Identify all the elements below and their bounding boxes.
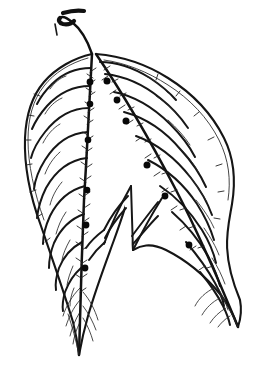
gland-dot bbox=[85, 137, 92, 144]
gland-dot bbox=[87, 79, 94, 86]
gland-dot bbox=[82, 265, 89, 272]
gland-dot bbox=[104, 78, 111, 85]
gland-dot bbox=[144, 162, 151, 169]
gland-dot bbox=[114, 97, 121, 104]
petiole-top-flick bbox=[63, 11, 84, 13]
gland-dot bbox=[83, 222, 90, 229]
gland-dot bbox=[123, 118, 130, 125]
leaf-figure bbox=[0, 0, 256, 369]
gland-dot bbox=[186, 242, 193, 249]
gland-dot bbox=[84, 187, 91, 194]
gland-dot bbox=[87, 101, 94, 108]
leaf-drawing-canvas bbox=[0, 0, 256, 369]
gland-dot bbox=[162, 193, 169, 200]
